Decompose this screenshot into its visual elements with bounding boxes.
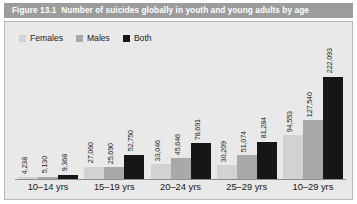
x-axis-line (15, 179, 346, 180)
bar-slot-both: 78,691 (191, 52, 211, 179)
bar-groups: 4,2385,1309,36827,06025,69052,75033,0464… (15, 52, 346, 179)
bar-females[interactable]: 27,060 (84, 167, 104, 179)
bar-value-label: 45,646 (173, 134, 180, 155)
bar-slot-males: 25,690 (104, 52, 124, 179)
bar-slot-males: 51,074 (237, 52, 257, 179)
legend-label-both: Both (134, 33, 152, 43)
bar-males[interactable]: 25,690 (104, 167, 124, 179)
bar-value-label: 127,540 (306, 92, 313, 117)
chart-panel: Females Males Both 4,2385,1309,36827,060… (4, 21, 353, 200)
bar-slot-females: 30,209 (217, 52, 237, 179)
category-label: 15–19 yrs (81, 182, 147, 192)
figure-number: Figure 13.1 (12, 6, 56, 15)
legend-label-females: Females (30, 33, 63, 43)
category-label: 20–24 yrs (147, 182, 213, 192)
bar-females[interactable]: 33,046 (151, 164, 171, 179)
legend-item-females: Females (19, 33, 63, 43)
category-label: 10–29 yrs (280, 182, 346, 192)
bar-slot-females: 94,553 (283, 52, 303, 179)
bar-males[interactable]: 127,540 (303, 120, 323, 179)
legend-item-males: Males (76, 33, 110, 43)
bar-group: 30,20951,07481,284 (214, 52, 280, 179)
bar-slot-females: 4,238 (18, 52, 38, 179)
bar-value-label: 9,368 (61, 154, 68, 171)
bar-value-label: 78,691 (193, 119, 200, 140)
bar-group: 33,04645,64678,691 (147, 52, 213, 179)
bar-value-label: 222,093 (326, 49, 333, 74)
bar-value-label: 94,553 (286, 111, 293, 132)
bar-both[interactable]: 222,093 (323, 77, 343, 179)
bar-slot-both: 81,284 (257, 52, 277, 179)
bar-both[interactable]: 52,750 (124, 155, 144, 179)
bar-value-label: 33,046 (153, 140, 160, 161)
bar-group: 4,2385,1309,368 (15, 52, 81, 179)
bar-slot-both: 9,368 (58, 52, 78, 179)
bar-both[interactable]: 78,691 (191, 143, 211, 179)
bar-slot-males: 5,130 (38, 52, 58, 179)
bar-group: 27,06025,69052,750 (81, 52, 147, 179)
chart-legend: Females Males Both (19, 33, 152, 43)
legend-swatch-females (19, 35, 26, 42)
bar-value-label: 30,209 (220, 141, 227, 162)
bar-males[interactable]: 45,646 (171, 158, 191, 179)
bar-both[interactable]: 81,284 (257, 142, 277, 179)
legend-item-both: Both (123, 33, 152, 43)
bar-value-label: 51,074 (240, 131, 247, 152)
figure-container: Figure 13.1 Number of suicides globally … (0, 0, 357, 204)
figure-title-bar: Figure 13.1 Number of suicides globally … (4, 3, 353, 18)
bar-slot-both: 222,093 (323, 52, 343, 179)
figure-title: Number of suicides globally in youth and… (61, 6, 309, 15)
bar-slot-males: 45,646 (171, 52, 191, 179)
bar-group: 94,553127,540222,093 (280, 52, 346, 179)
legend-swatch-males (76, 35, 83, 42)
bar-females[interactable]: 30,209 (217, 165, 237, 179)
category-label: 25–29 yrs (214, 182, 280, 192)
bar-value-label: 81,284 (260, 117, 267, 138)
bar-slot-females: 27,060 (84, 52, 104, 179)
legend-label-males: Males (87, 33, 110, 43)
legend-swatch-both (123, 35, 130, 42)
category-axis-labels: 10–14 yrs15–19 yrs20–24 yrs25–29 yrs10–2… (15, 182, 346, 192)
bar-value-label: 25,690 (107, 143, 114, 164)
bar-males[interactable]: 51,074 (237, 155, 257, 179)
bar-slot-both: 52,750 (124, 52, 144, 179)
bar-females[interactable]: 94,553 (283, 135, 303, 179)
bar-value-label: 5,130 (41, 156, 48, 173)
plot-area: 4,2385,1309,36827,06025,69052,75033,0464… (15, 52, 346, 180)
category-label: 10–14 yrs (15, 182, 81, 192)
bar-slot-males: 127,540 (303, 52, 323, 179)
bar-value-label: 27,060 (87, 142, 94, 163)
bar-value-label: 52,750 (127, 131, 134, 152)
bar-slot-females: 33,046 (151, 52, 171, 179)
bar-value-label: 4,238 (21, 157, 28, 174)
